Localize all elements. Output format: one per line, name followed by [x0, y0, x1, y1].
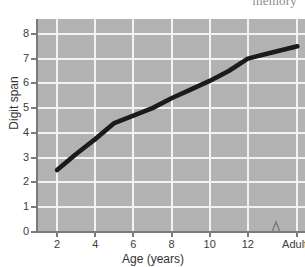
y-tick-label: 7 — [0, 53, 29, 64]
y-tick-mark — [31, 231, 37, 233]
x-tick-mark — [296, 232, 298, 237]
x-tick-label: 8 — [168, 239, 174, 250]
y-tick-mark — [31, 181, 37, 183]
x-tick-mark — [56, 232, 58, 237]
y-tick-mark — [31, 157, 37, 159]
series-layer — [38, 19, 305, 232]
y-tick-label: 3 — [0, 152, 29, 163]
y-tick-mark — [31, 33, 37, 35]
y-tick-mark — [31, 107, 37, 109]
y-tick-label: 2 — [0, 176, 29, 187]
x-tick-label: 6 — [130, 239, 136, 250]
y-tick-label: 1 — [0, 201, 29, 212]
plot-area — [38, 19, 305, 232]
y-axis-title: Digit span — [7, 63, 21, 143]
x-tick-mark — [132, 232, 134, 237]
x-tick-label: 12 — [242, 239, 254, 250]
y-tick-mark — [31, 82, 37, 84]
x-tick-label: 4 — [92, 239, 98, 250]
digit-span-series-line — [57, 46, 297, 170]
y-tick-label: 8 — [0, 28, 29, 39]
x-tick-mark — [94, 232, 96, 237]
x-tick-label: 10 — [204, 239, 216, 250]
x-tick-label: Adults — [282, 239, 305, 250]
x-tick-label: 2 — [54, 239, 60, 250]
x-tick-mark — [209, 232, 211, 237]
y-axis-line — [36, 19, 38, 232]
y-tick-mark — [31, 132, 37, 134]
y-tick-mark — [31, 206, 37, 208]
x-axis-break-icon — [265, 219, 287, 233]
y-tick-mark — [31, 58, 37, 60]
digit-span-line-chart: 012345678 24681012Adults Digit span Age … — [0, 0, 305, 267]
y-tick-label: 0 — [0, 226, 29, 237]
x-tick-mark — [171, 232, 173, 237]
x-axis-title: Age (years) — [38, 252, 268, 266]
x-tick-mark — [247, 232, 249, 237]
